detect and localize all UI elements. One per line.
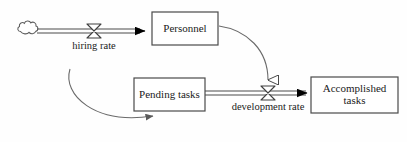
system-dynamics-diagram: Personnel Pending tasks Accomplished tas… [0,0,407,142]
connector-personnel-to-development-rate [219,26,268,80]
valve-development-rate[interactable] [261,86,275,100]
stock-box-personnel[interactable] [152,12,218,45]
cloud-source-icon [18,21,38,34]
valve-hiring-rate[interactable] [87,24,101,38]
stock-box-pending-tasks[interactable] [134,78,205,111]
flow-pipe-hiring-rate [37,29,145,33]
diagram-canvas [0,0,407,142]
stock-box-accomplished-tasks[interactable] [311,77,398,113]
flow-pipe-development-rate [205,91,307,95]
